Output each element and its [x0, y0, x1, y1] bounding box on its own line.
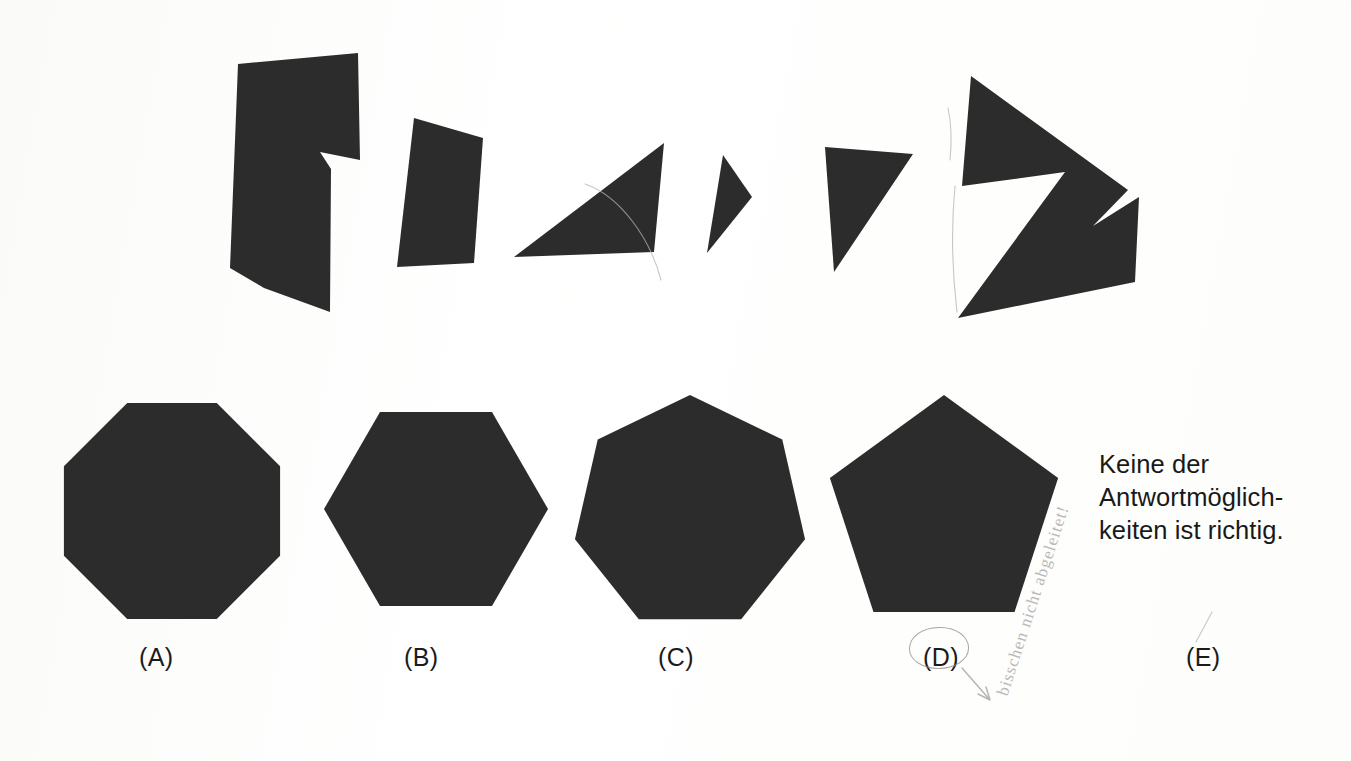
handwritten-note: bisschen nicht abgeleitet!: [975, 648, 1185, 748]
test-page: (A) (B) (C) (D) (E) Keine der Antwortmög…: [0, 0, 1351, 761]
pencil-marks-group: [0, 0, 1351, 761]
scan-artifact-line-2: [948, 108, 951, 160]
scan-artifact-line-1: [585, 184, 661, 280]
scan-artifact-line-3: [953, 186, 957, 312]
stray-pencil-stroke-near-e: [1196, 612, 1212, 642]
